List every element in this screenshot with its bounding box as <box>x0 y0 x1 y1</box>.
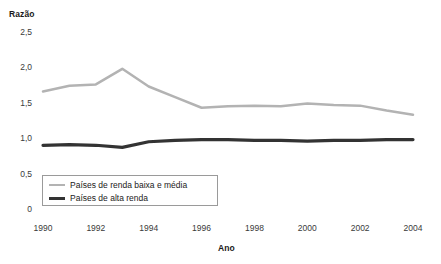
series-layer <box>43 69 413 148</box>
line-chart: Razão 00,51,01,52,02,5 19901992199419961… <box>0 0 441 264</box>
chart-legend: Países de renda baixa e média Países de … <box>42 175 218 206</box>
legend-item-low-middle-income: Países de renda baixa e média <box>49 179 187 191</box>
plot-area <box>0 0 441 264</box>
legend-item-high-income: Países de alta renda <box>49 192 148 204</box>
legend-line-swatch-icon <box>49 197 65 200</box>
data-series-line <box>43 69 413 115</box>
legend-item-label: Países de renda baixa e média <box>70 180 187 190</box>
x-axis-title: Ano <box>0 243 441 253</box>
data-series-line <box>43 140 413 148</box>
legend-item-label: Países de alta renda <box>70 193 148 203</box>
legend-line-swatch-icon <box>49 184 65 186</box>
